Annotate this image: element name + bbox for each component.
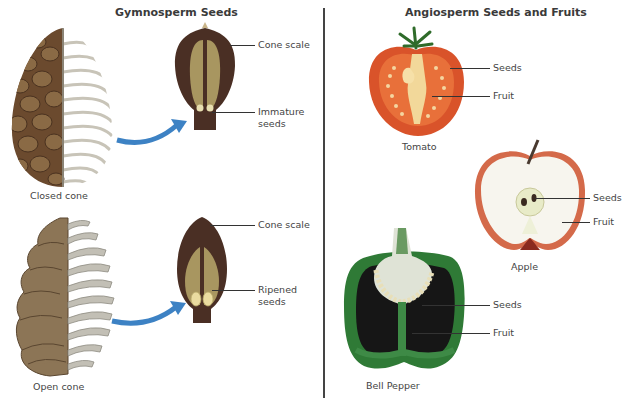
- panel-divider: [323, 8, 325, 398]
- angiosperm-title: Angiosperm Seeds and Fruits: [405, 6, 587, 19]
- cone-scale-label-top: Cone scale: [258, 39, 310, 51]
- immature-label: Immature: [258, 106, 304, 118]
- tomato-seeds-label: Seeds: [493, 62, 522, 74]
- tomato-fruit-label: Fruit: [493, 90, 514, 102]
- gymnosperm-title: Gymnosperm Seeds: [115, 6, 238, 19]
- closed-cone-caption: Closed cone: [30, 190, 88, 201]
- ripened-seeds-label: seeds: [258, 296, 286, 308]
- pepper-seeds-label: Seeds: [493, 299, 522, 311]
- apple-illustration: [472, 138, 592, 256]
- immature-seeds-label: seeds: [258, 118, 286, 130]
- open-cone-illustration: [10, 214, 115, 379]
- apple-seeds-label: Seeds: [593, 192, 622, 204]
- bell-pepper-illustration: [340, 226, 468, 374]
- open-cone-caption: Open cone: [33, 381, 84, 392]
- apple-caption: Apple: [511, 261, 538, 272]
- closed-cone-illustration: [8, 24, 118, 189]
- pepper-fruit-label: Fruit: [493, 327, 514, 339]
- ripened-cone-scale-illustration: [175, 215, 229, 327]
- immature-cone-scale-illustration: [172, 26, 238, 134]
- bell-pepper-caption: Bell Pepper: [366, 380, 420, 391]
- tomato-illustration: [366, 24, 466, 139]
- cone-scale-label-bottom: Cone scale: [258, 219, 310, 231]
- tomato-caption: Tomato: [402, 141, 437, 152]
- ripened-label: Ripened: [258, 284, 297, 296]
- apple-fruit-label: Fruit: [593, 216, 614, 228]
